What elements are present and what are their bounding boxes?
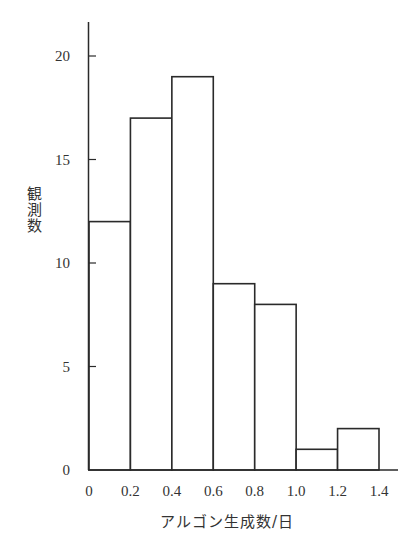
x-tick-label: 1.4 — [370, 483, 389, 499]
histogram-chart: 05101520 00.20.40.60.81.01.21.4 — [0, 0, 418, 541]
histogram-bar — [172, 77, 213, 470]
x-tick-label: 0.2 — [121, 483, 140, 499]
y-tick-label: 20 — [55, 48, 70, 64]
x-tick-label: 1.2 — [328, 483, 347, 499]
x-axis-title: アルゴン生成数/日 — [160, 510, 294, 531]
y-tick-label: 0 — [63, 462, 71, 478]
y-axis-title: 観測数 — [22, 186, 44, 234]
x-tick-label: 1.0 — [287, 483, 306, 499]
y-tick-label: 10 — [55, 255, 70, 271]
histogram-bar — [130, 118, 171, 470]
x-tick-label: 0 — [85, 483, 93, 499]
histogram-bar — [255, 304, 296, 470]
histogram-bars — [89, 77, 379, 470]
y-tick-label: 5 — [63, 359, 71, 375]
histogram-bar — [89, 222, 130, 470]
histogram-bar — [296, 449, 337, 470]
x-ticks: 00.20.40.60.81.01.21.4 — [85, 483, 389, 499]
x-tick-label: 0.8 — [245, 483, 264, 499]
x-tick-label: 0.6 — [204, 483, 223, 499]
histogram-bar — [338, 429, 379, 470]
x-tick-label: 0.4 — [162, 483, 181, 499]
y-tick-label: 15 — [55, 152, 70, 168]
histogram-bar — [213, 284, 254, 470]
